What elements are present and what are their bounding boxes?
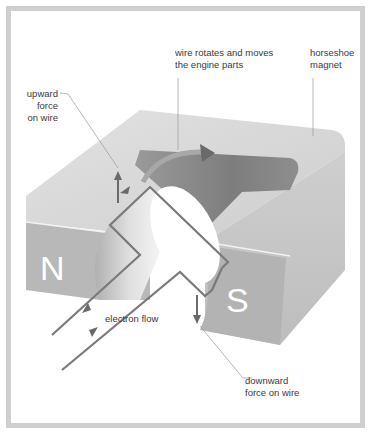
rotation-label: wire rotates and moves the engine parts [175, 47, 273, 71]
south-pole-label: S [226, 281, 249, 319]
north-pole-label: N [40, 249, 65, 287]
electron-flow-label: electron flow [105, 313, 158, 325]
downward-force-label: downward force on wire [245, 375, 299, 399]
downward-force-arrow-icon [193, 295, 201, 324]
magnet-label: horseshoe magnet [310, 47, 354, 71]
upward-force-label: upward force on wire [20, 88, 58, 124]
